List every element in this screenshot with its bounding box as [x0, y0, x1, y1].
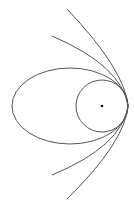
focus-dot: [101, 105, 104, 108]
conic-sections-diagram: [0, 0, 134, 209]
ellipse-shape: [12, 68, 128, 144]
parabola-curve: [52, 36, 128, 175]
diagram-svg: [0, 0, 134, 209]
